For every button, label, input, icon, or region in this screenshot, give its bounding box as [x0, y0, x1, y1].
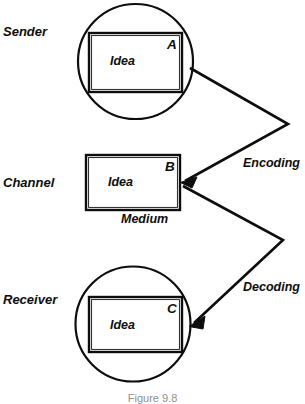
figure-linework [0, 0, 305, 404]
receiver-idea-text: Idea [110, 319, 135, 332]
sender-box-letter: A [167, 38, 177, 52]
channel-box-letter: B [165, 160, 175, 174]
decoding-label: Decoding [243, 281, 300, 294]
encoding-label: Encoding [243, 157, 300, 170]
stage-label-receiver: Receiver [3, 293, 57, 306]
stage-label-sender: Sender [3, 25, 47, 38]
communication-model-figure: Sender Channel Receiver Idea Idea Idea A… [0, 0, 305, 404]
stage-label-channel: Channel [3, 176, 54, 189]
sender-idea-text: Idea [110, 55, 135, 68]
figure-caption: Figure 9.8 [0, 392, 305, 404]
receiver-box-letter: C [167, 302, 177, 316]
channel-medium-label: Medium [121, 213, 168, 226]
channel-idea-text: Idea [108, 176, 133, 189]
decoding-connector-line [183, 186, 283, 323]
